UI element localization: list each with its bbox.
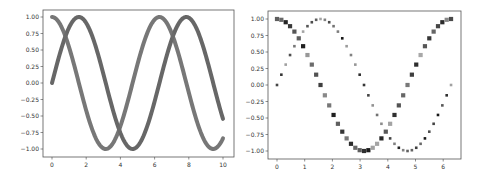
scatter-marker: [293, 45, 296, 48]
scatter-marker: [406, 150, 409, 153]
scatter-marker: [327, 103, 331, 107]
scatter-marker: [315, 19, 318, 22]
scatter-marker: [428, 130, 431, 133]
scatter-marker: [371, 146, 375, 150]
scatter-marker: [310, 63, 314, 67]
scatter-marker: [324, 19, 327, 22]
scatter-marker: [423, 44, 427, 48]
scatter-marker: [311, 21, 314, 24]
scatter-marker: [432, 122, 435, 125]
scatter-marker: [376, 114, 379, 117]
y-tick-label: −0.25: [21, 96, 40, 103]
scatter-marker: [384, 130, 388, 134]
scatter-series-sin: [276, 18, 453, 153]
scatter-marker: [393, 143, 396, 146]
scatter-marker: [392, 113, 396, 117]
scatter-marker: [445, 18, 449, 22]
scatter-marker: [449, 17, 453, 21]
scatter-marker: [410, 73, 414, 77]
scatter-marker: [450, 84, 453, 87]
scatter-marker: [337, 30, 340, 33]
y-tick-label: 0.25: [26, 63, 40, 70]
scatter-marker: [276, 84, 279, 87]
scatter-marker: [358, 73, 361, 76]
scatter-marker: [336, 122, 340, 126]
line-series-cos: [52, 17, 223, 149]
scatter-marker: [350, 54, 353, 57]
scatter-marker: [436, 24, 440, 28]
scatter-marker: [418, 53, 422, 57]
y-tick-label: 0.25: [251, 65, 265, 72]
scatter-marker: [349, 142, 353, 146]
scatter-marker: [280, 73, 283, 76]
y-tick-label: −0.25: [246, 98, 265, 105]
scatter-chart-sin-cos: 01234561.000.750.500.250.00−0.25−0.50−0.…: [246, 11, 461, 170]
scatter-marker: [297, 36, 301, 40]
scatter-marker: [402, 149, 405, 152]
scatter-marker: [332, 25, 335, 28]
scatter-marker: [354, 63, 357, 66]
y-tick-label: 0.50: [26, 46, 40, 53]
x-tick-label: 0: [275, 163, 279, 170]
scatter-marker: [288, 24, 292, 28]
scatter-marker: [367, 94, 370, 97]
x-tick-label: 4: [386, 163, 390, 170]
x-tick-label: 10: [219, 161, 227, 168]
scatter-marker: [341, 37, 344, 40]
x-tick-label: 3: [358, 163, 362, 170]
scatter-marker: [305, 53, 309, 57]
x-tick-label: 2: [330, 163, 334, 170]
scatter-marker: [331, 113, 335, 117]
scatter-marker: [319, 18, 322, 21]
scatter-marker: [380, 122, 383, 125]
scatter-marker: [437, 114, 440, 117]
y-tick-label: 0.75: [26, 30, 40, 37]
scatter-marker: [440, 20, 444, 24]
y-tick-label: −1.00: [21, 145, 40, 152]
x-tick-label: 8: [187, 161, 191, 168]
scatter-marker: [414, 63, 418, 67]
scatter-marker: [445, 94, 448, 97]
scatter-marker: [441, 104, 444, 107]
y-tick-label: 0.00: [251, 81, 265, 88]
y-tick-label: −0.75: [246, 131, 265, 138]
scatter-marker: [345, 45, 348, 48]
scatter-marker: [301, 44, 305, 48]
y-tick-label: 1.00: [251, 15, 265, 22]
scatter-marker: [292, 30, 296, 34]
scatter-marker: [366, 148, 370, 152]
scatter-marker: [362, 149, 366, 153]
scatter-marker: [401, 93, 405, 97]
x-tick-label: 2: [84, 161, 88, 168]
scatter-marker: [323, 93, 327, 97]
scatter-marker: [314, 73, 318, 77]
y-tick-label: −1.00: [246, 147, 265, 154]
scatter-marker: [411, 149, 414, 152]
scatter-marker: [419, 143, 422, 146]
scatter-marker: [279, 18, 283, 22]
axes-frame: [43, 10, 234, 157]
y-tick-label: 0.75: [251, 32, 265, 39]
scatter-marker: [427, 36, 431, 40]
figure: 02468101.000.750.500.250.00−0.25−0.50−0.…: [0, 0, 487, 179]
y-tick-label: 0.00: [26, 79, 40, 86]
scatter-marker: [389, 137, 392, 140]
scatter-marker: [306, 25, 309, 28]
scatter-marker: [302, 30, 305, 33]
scatter-marker: [388, 122, 392, 126]
scatter-marker: [379, 136, 383, 140]
x-tick-label: 1: [303, 163, 307, 170]
x-tick-label: 6: [441, 163, 445, 170]
scatter-marker: [371, 104, 374, 107]
scatter-marker: [432, 30, 436, 34]
x-tick-label: 5: [414, 163, 418, 170]
scatter-marker: [353, 146, 357, 150]
scatter-marker: [415, 146, 418, 149]
scatter-marker: [375, 142, 379, 146]
scatter-marker: [424, 137, 427, 140]
y-tick-label: 1.00: [26, 13, 40, 20]
scatter-marker: [284, 20, 288, 24]
scatter-marker: [289, 54, 292, 57]
y-tick-label: 0.50: [251, 48, 265, 55]
scatter-marker: [358, 148, 362, 152]
